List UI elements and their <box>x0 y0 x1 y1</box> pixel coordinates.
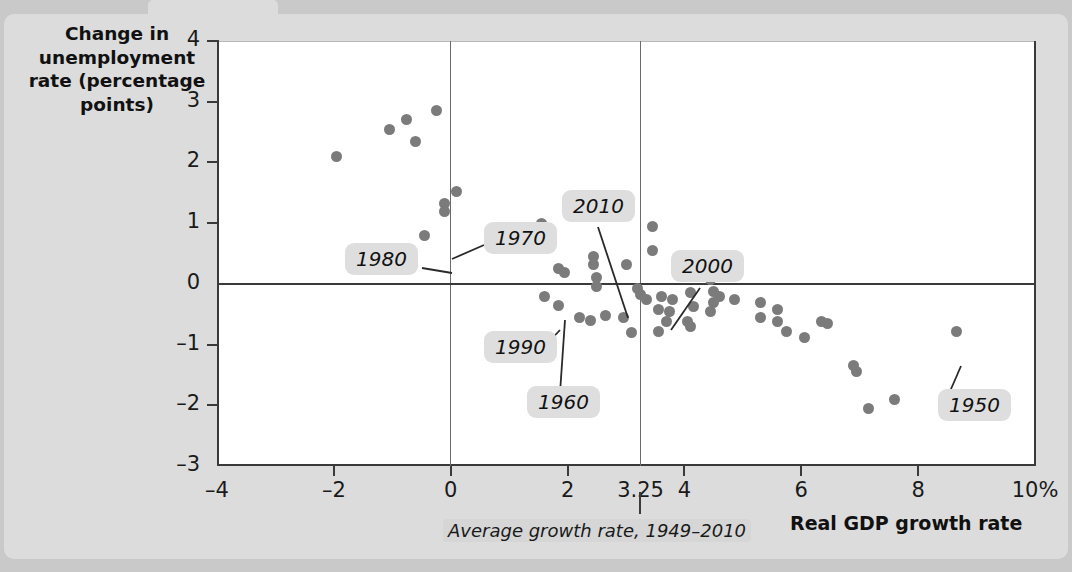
plot-top-edge <box>217 41 1035 42</box>
data-point <box>384 124 395 135</box>
average-growth-stem <box>639 492 641 514</box>
data-point <box>714 291 725 302</box>
y-tick-label: –2 <box>160 391 200 415</box>
x-tick-label: 10% <box>1000 478 1070 502</box>
y-tick-label: 0 <box>160 270 200 294</box>
data-point <box>641 294 652 305</box>
y-tick-mark <box>207 344 219 346</box>
x-tick-mark <box>450 466 452 476</box>
data-point <box>553 300 564 311</box>
data-point <box>951 326 962 337</box>
vertical-reference-line <box>450 41 452 466</box>
data-point <box>618 312 629 323</box>
x-tick-mark <box>800 466 802 476</box>
y-tick-mark <box>207 40 219 42</box>
data-point <box>419 230 430 241</box>
x-tick-mark <box>333 466 335 476</box>
callout-1970[interactable]: 1970 <box>484 222 557 254</box>
x-tick-label: 6 <box>766 478 836 502</box>
y-tick-mark <box>207 222 219 224</box>
x-tick-label: –4 <box>182 478 252 502</box>
plot-area <box>217 41 1035 466</box>
y-tick-label: –1 <box>160 331 200 355</box>
x-tick-label: –2 <box>299 478 369 502</box>
y-tick-label: –3 <box>160 452 200 476</box>
y-tick-label: 2 <box>160 148 200 172</box>
data-point <box>889 394 900 405</box>
x-tick-label: 4 <box>649 478 719 502</box>
average-growth-note: Average growth rate, 1949–2010 <box>443 519 751 542</box>
plot-right-edge <box>1034 41 1036 466</box>
data-point <box>656 291 667 302</box>
x-tick-mark <box>917 466 919 476</box>
chart-page: Change in unemployment rate (percentage … <box>0 0 1072 572</box>
x-tick-label: 0 <box>416 478 486 502</box>
data-point <box>621 259 632 270</box>
data-point <box>574 312 585 323</box>
data-point <box>647 221 658 232</box>
y-tick-mark <box>207 161 219 163</box>
x-tick-mark <box>567 466 569 476</box>
data-point <box>410 136 421 147</box>
y-tick-label: 4 <box>160 27 200 51</box>
data-point <box>439 206 450 217</box>
data-point <box>729 294 740 305</box>
data-point <box>431 105 442 116</box>
vertical-reference-line <box>640 41 642 466</box>
callout-1990[interactable]: 1990 <box>484 331 557 363</box>
data-point <box>685 321 696 332</box>
data-point <box>667 294 678 305</box>
data-point <box>653 326 664 337</box>
data-point <box>781 326 792 337</box>
data-point <box>653 304 664 315</box>
data-point <box>799 332 810 343</box>
y-tick-label: 3 <box>160 88 200 112</box>
callout-1960[interactable]: 1960 <box>527 386 600 418</box>
data-point <box>600 310 611 321</box>
data-point <box>647 245 658 256</box>
data-point <box>863 403 874 414</box>
callout-2000[interactable]: 2000 <box>671 250 744 282</box>
callout-1980[interactable]: 1980 <box>345 243 418 275</box>
x-tick-label: 2 <box>533 478 603 502</box>
data-point <box>705 306 716 317</box>
y-tick-mark <box>207 101 219 103</box>
data-point <box>539 291 550 302</box>
x-tick-label: 8 <box>883 478 953 502</box>
horizontal-zero-line <box>217 283 1035 285</box>
data-point <box>755 312 766 323</box>
x-axis-title: Real GDP growth rate <box>790 512 1022 534</box>
x-tick-mark <box>683 466 685 476</box>
y-tick-label: 1 <box>160 209 200 233</box>
y-tick-mark <box>207 404 219 406</box>
callout-1950[interactable]: 1950 <box>938 389 1011 421</box>
data-point <box>755 297 766 308</box>
callout-2010[interactable]: 2010 <box>562 190 635 222</box>
data-point <box>822 318 833 329</box>
